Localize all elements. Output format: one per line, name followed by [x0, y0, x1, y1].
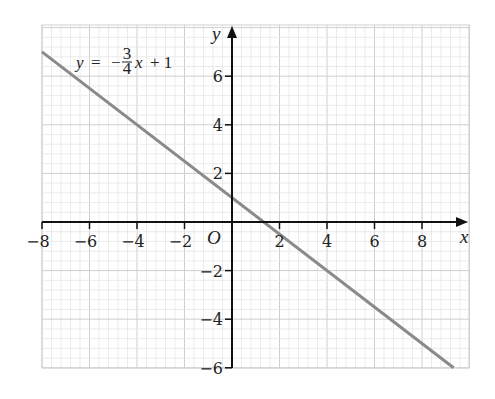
- y-tick-label: −6: [199, 359, 223, 378]
- eq-equals: =: [91, 53, 101, 72]
- y-tick-label: 4: [213, 116, 223, 135]
- x-tick-label: 8: [417, 232, 427, 251]
- eq-minus: −: [111, 53, 121, 72]
- y-tick-label: 2: [213, 164, 223, 183]
- x-tick-label: 4: [322, 232, 332, 251]
- x-tick-label: 6: [369, 232, 379, 251]
- x-tick-label: −6: [74, 232, 98, 251]
- x-tick-label: 2: [274, 232, 284, 251]
- data-line: [42, 52, 454, 368]
- x-tick-label: −4: [121, 232, 145, 251]
- x-tick-label: −8: [26, 232, 50, 251]
- grid: [42, 25, 470, 368]
- x-axis-label: x: [459, 226, 469, 247]
- origin-label: O: [207, 227, 221, 248]
- eq-x: x: [134, 53, 143, 72]
- y-axis-label: y: [210, 23, 221, 44]
- eq-denominator: 4: [123, 59, 132, 78]
- chart-canvas: −8−6−4−22468−6−4−2246xyOy=−34x+ 1: [0, 0, 495, 399]
- y-tick-label: 6: [213, 67, 223, 86]
- equation-annotation: y=−34x+ 1: [74, 44, 172, 78]
- y-tick-label: −4: [199, 310, 223, 329]
- eq-plus-one: + 1: [150, 53, 172, 72]
- x-tick-label: −2: [169, 232, 193, 251]
- eq-y: y: [74, 53, 84, 72]
- y-tick-label: −2: [199, 262, 223, 281]
